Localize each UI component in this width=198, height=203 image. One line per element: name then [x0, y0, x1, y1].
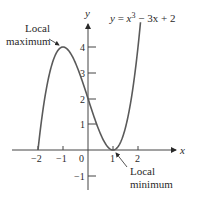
x-tick-label: 2 — [135, 153, 140, 164]
x-tick-label: 0 — [79, 153, 84, 164]
x-tick-label: −1 — [56, 153, 67, 164]
x-axis-label: x — [179, 144, 185, 156]
y-tick-label: −1 — [74, 171, 85, 182]
local-minimum-pointer — [116, 153, 127, 167]
local-maximum-label-line2: maximum — [6, 35, 51, 47]
x-tick-label: −2 — [31, 153, 42, 164]
y-axis-label: y — [84, 7, 90, 19]
x-tick-label: 1 — [110, 153, 115, 164]
function-graph: x y −2 −1 0 1 2 4 3 2 1 −1 y = x3 − 3x +… — [0, 0, 198, 203]
y-tick-label: 1 — [80, 119, 85, 130]
local-maximum-label-line1: Local — [25, 22, 50, 34]
local-minimum-label-line2: minimum — [130, 178, 173, 190]
equation-label: y = x3 − 3x + 2 — [109, 11, 175, 24]
y-tick-label: 4 — [80, 42, 85, 53]
local-minimum-label-line1: Local — [130, 165, 155, 177]
y-tick-label: 2 — [80, 94, 85, 105]
